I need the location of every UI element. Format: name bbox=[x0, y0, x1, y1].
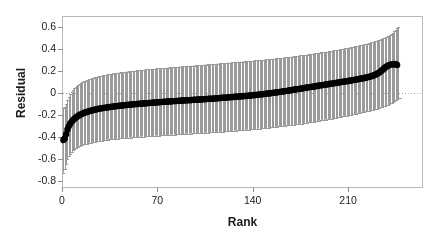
y-axis-title: Residual bbox=[14, 48, 28, 138]
x-tick-label: 70 bbox=[137, 194, 177, 206]
x-tick-label: 210 bbox=[328, 194, 368, 206]
y-tick-label: -0.8 bbox=[18, 174, 56, 186]
x-tick-label: 140 bbox=[233, 194, 273, 206]
residual-rank-chart: 0.60.40.20-0.2-0.4-0.6-0.8 070140210 Res… bbox=[0, 0, 442, 242]
x-tick-label: 0 bbox=[42, 194, 82, 206]
x-axis-title: Rank bbox=[62, 215, 423, 229]
y-tick-label: 0.6 bbox=[18, 20, 56, 32]
y-tick-label: -0.6 bbox=[18, 152, 56, 164]
